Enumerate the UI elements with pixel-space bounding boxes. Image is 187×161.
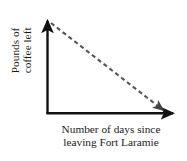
trend-line-coffee-left	[51, 23, 163, 110]
y-axis-label-line1: Pounds of	[9, 7, 21, 93]
y-axis-label: Pounds of coffee left	[9, 7, 34, 93]
x-axis-label-line2: leaving Fort Laramie	[38, 136, 184, 149]
y-axis-label-line2: coffee left	[21, 7, 33, 93]
coffee-left-figure: · · · Pounds of coffee left Number of da…	[0, 0, 187, 161]
x-axis-label-line1: Number of days since	[38, 123, 184, 136]
x-axis-label: Number of days since leaving Fort Larami…	[38, 123, 184, 149]
